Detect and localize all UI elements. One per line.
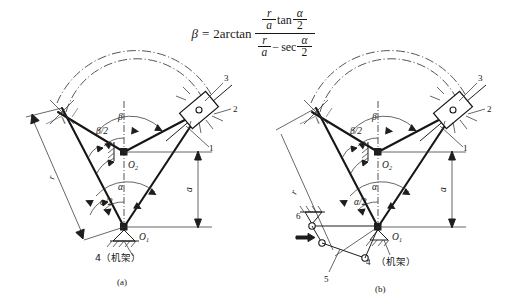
part-5-leader-b [329,249,340,272]
label-beta-a: β [117,112,123,122]
label-dim-r-b: r [288,189,299,196]
pivot-o1-ground-hatch-a [107,241,136,247]
pivot-o1-triangle-b [370,230,388,240]
figure-a-group: β β/2 α α/2 O 2 O 1 r a l 1 2 3 4（机架） (a… [26,51,238,287]
label-pivot-o2-b: O [382,160,389,170]
swing-arc-inner-b [320,59,460,112]
part-number-1-b: 1 [463,143,468,153]
linkage-bar-2-b [322,243,365,258]
link-arrows-b [342,146,368,173]
linkage-ground-hatch-b [300,206,322,212]
dim-r-line-a [33,120,82,233]
label-beta-half-a: β/2 [95,126,108,136]
link-arrows-a [88,146,114,173]
link-o1-right-a [124,118,196,227]
label-pivot-o1-b: O [392,232,399,242]
label-alpha-half-a: α/2 [100,197,113,207]
label-alpha-a: α [118,182,124,192]
part-number-5-b: 5 [324,274,329,284]
caption-figure-b: (b) [375,284,386,294]
slider-pin-a [196,107,202,113]
part-number-3-b: 3 [478,73,483,83]
label-alpha-b: α [372,182,378,192]
dimension-a-vertical-b [378,151,466,228]
part-number-4-frame-b: （机架） [376,256,416,267]
linkage-ground-triangle-b [305,212,322,224]
figure-b-group: β β/2 α α/2 O 2 O 1 r a l 1 2 3 4 （机架） 5… [276,51,492,294]
part-number-3-a: 3 [224,73,229,83]
mechanism-diagram-svg: β β/2 α α/2 O 2 O 1 r a l 1 2 3 4（机架） (a… [0,0,508,301]
linkage-bar-3-b [365,228,378,258]
label-dim-r-a: r [46,174,57,180]
label-dim-a-a: a [184,187,194,192]
figure-root: β β/2 α α/2 O 2 O 1 r a l 1 2 3 4（机架） (a… [0,0,508,301]
label-dim-a-b: a [438,187,448,192]
label-alpha-half-b: α/2 [354,197,367,207]
slider-pin-b [450,107,456,113]
part-number-6-b: 6 [296,211,301,221]
input-force-arrow-b [296,233,315,241]
dimension-r-oblique-a [26,108,124,240]
part-number-4-a: 4（机架） [95,252,141,263]
dim-r-arrow-bottom-a [76,229,84,239]
link-o1-left-b [316,108,378,227]
label-pivot-o1-a: O [139,232,146,242]
dimension-a-vertical-a [124,151,212,228]
dim-r-ext-bottom-a [84,227,124,240]
pivot-o1-triangle-a [113,230,135,241]
part-number-4-b: 4 [366,257,371,267]
label-pivot-o2-sub-b: 2 [389,164,392,171]
label-beta-half-b: β/2 [349,126,362,136]
dim-r-arrow-top-a [31,114,39,124]
label-pivot-o2-sub-a: 2 [135,164,138,171]
swing-arc-inner-a [66,59,206,112]
part-number-2-b: 2 [487,104,492,114]
link-o1-right-b [378,118,450,227]
part-number-2-a: 2 [233,104,238,114]
label-pivot-o2-a: O [128,160,135,170]
label-beta-b: β [371,112,377,122]
label-pivot-o1-sub-a: 1 [146,236,149,243]
dim-r-ext-bottom-b [335,227,378,256]
part-number-1-a: 1 [209,143,214,153]
caption-figure-a: (a) [117,277,127,287]
label-pivot-o1-sub-b: 1 [399,236,402,243]
